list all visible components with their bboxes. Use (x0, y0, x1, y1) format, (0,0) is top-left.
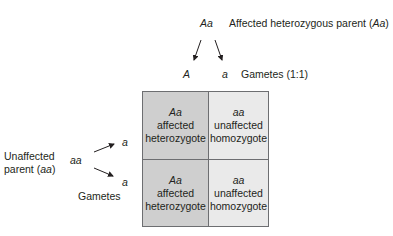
cell-zygosity: heterozygote (145, 132, 206, 145)
top-parent-label-suffix: ) (385, 17, 389, 29)
left-parent-label-genotype: aa (40, 163, 52, 175)
cell-genotype: aa (233, 174, 245, 187)
arrow-to-A-icon (194, 40, 201, 60)
cell-genotype: Aa (169, 106, 182, 119)
top-gamete-A: A (183, 68, 190, 80)
arrow-to-bottom-gamete-icon (94, 168, 113, 176)
cell-zygosity: homozygote (210, 132, 267, 145)
cell-phenotype: unaffected (214, 119, 263, 132)
left-gamete-top: a (122, 136, 128, 148)
cell-genotype: Aa (169, 174, 182, 187)
left-gamete-bottom: a (122, 176, 128, 188)
cell-zygosity: heterozygote (145, 200, 206, 213)
cell-zygosity: homozygote (210, 200, 267, 213)
top-parent-genotype: Aa (200, 17, 213, 29)
top-gametes-label: Gametes (1:1) (241, 68, 308, 80)
left-parent-label-line2: parent (aa) (4, 163, 55, 175)
punnett-cell-bottom-right: aa unaffected homozygote (208, 159, 268, 226)
left-gametes-label: Gametes (78, 190, 121, 202)
left-parent-genotype: aa (70, 154, 82, 166)
top-parent-label: Affected heterozygous parent (Aa) (229, 17, 389, 29)
cell-genotype: aa (233, 106, 245, 119)
cell-phenotype: affected (157, 119, 194, 132)
cell-phenotype: unaffected (214, 187, 263, 200)
top-gamete-a: a (222, 68, 228, 80)
left-parent-label-line1: Unaffected (4, 150, 55, 162)
left-parent-label-suffix: ) (52, 163, 56, 175)
punnett-square: Aa affected heterozygote aa unaffected h… (142, 91, 269, 227)
arrow-to-a-icon (215, 40, 222, 60)
left-parent-label-text: parent ( (4, 163, 40, 175)
punnett-cell-top-left: Aa affected heterozygote (143, 92, 208, 159)
top-parent-label-genotype: Aa (372, 17, 385, 29)
punnett-cell-bottom-left: Aa affected heterozygote (143, 159, 208, 226)
cell-phenotype: affected (157, 187, 194, 200)
arrow-to-top-gamete-icon (94, 144, 114, 152)
punnett-cell-top-right: aa unaffected homozygote (208, 92, 268, 159)
top-parent-label-text: Affected heterozygous parent ( (229, 17, 372, 29)
